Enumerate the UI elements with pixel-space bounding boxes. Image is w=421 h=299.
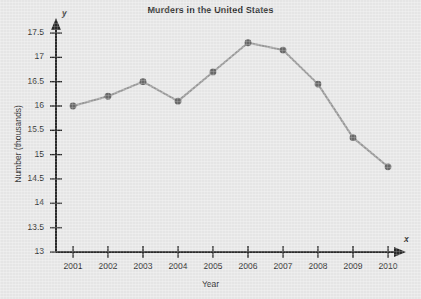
- data-point-markers: [70, 39, 392, 170]
- data-point: [70, 103, 77, 110]
- data-point: [105, 93, 112, 100]
- y-tick-label: 14: [14, 197, 44, 207]
- data-point: [140, 78, 147, 85]
- y-tick-label: 15.5: [14, 124, 44, 134]
- x-tick-label: 2008: [300, 261, 336, 271]
- chart-figure: Murders in the United States y x Year Nu…: [0, 0, 421, 299]
- x-tick-label: 2009: [335, 261, 371, 271]
- data-point: [315, 81, 322, 88]
- data-series-line: [73, 43, 388, 167]
- data-point: [245, 39, 252, 46]
- x-tick-label: 2006: [230, 261, 266, 271]
- y-tick-label: 17.5: [14, 27, 44, 37]
- x-tick-label: 2005: [195, 261, 231, 271]
- y-tick-label: 13.5: [14, 222, 44, 232]
- data-point: [350, 134, 357, 141]
- y-tick-label: 15: [14, 149, 44, 159]
- x-tick-label: 2002: [90, 261, 126, 271]
- data-point: [280, 47, 287, 54]
- y-tick-label: 13: [14, 246, 44, 256]
- data-point: [210, 69, 217, 76]
- x-tick-label: 2004: [160, 261, 196, 271]
- y-tick-label: 17: [14, 51, 44, 61]
- y-tick-label: 16.5: [14, 76, 44, 86]
- x-tick-label: 2001: [55, 261, 91, 271]
- plot-area: [0, 0, 421, 299]
- data-point: [175, 98, 182, 105]
- y-tick-label: 16: [14, 100, 44, 110]
- y-tick-label: 14.5: [14, 173, 44, 183]
- x-tick-label: 2003: [125, 261, 161, 271]
- data-point: [385, 163, 392, 170]
- x-tick-label: 2007: [265, 261, 301, 271]
- x-tick-label: 2010: [370, 261, 406, 271]
